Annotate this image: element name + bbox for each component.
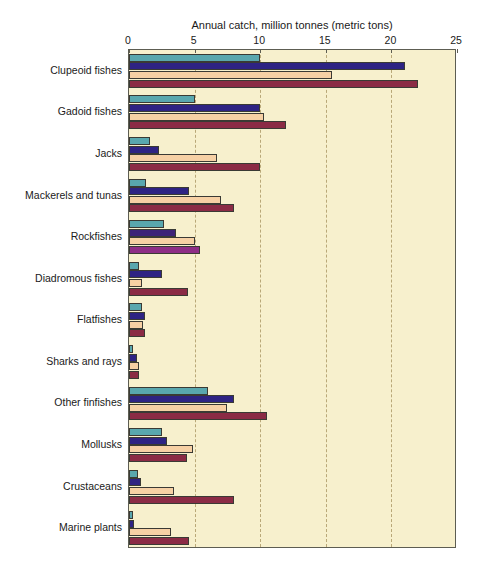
bar (129, 54, 260, 62)
x-tick-label: 5 (191, 34, 197, 46)
bar (129, 146, 159, 154)
bar (129, 237, 195, 245)
bar-group (129, 95, 455, 129)
bar (129, 329, 145, 337)
bar-rows (129, 50, 455, 547)
bar (129, 404, 227, 412)
category-label: Diadromous fishes (0, 272, 122, 284)
bar (129, 528, 171, 536)
category-label: Crustaceans (0, 480, 122, 492)
bar (129, 154, 217, 162)
bar (129, 163, 260, 171)
x-axis-tick-labels: 0510152025 (0, 34, 482, 48)
bar (129, 354, 137, 362)
bar-group (129, 262, 455, 296)
bar (129, 387, 208, 395)
bar (129, 487, 174, 495)
bar (129, 187, 189, 195)
bar (129, 478, 141, 486)
chart-title: Annual catch, million tonnes (metric ton… (128, 19, 456, 31)
bar (129, 511, 133, 519)
bar (129, 437, 167, 445)
x-tick-label: 10 (253, 34, 265, 46)
bar (129, 95, 195, 103)
bar (129, 62, 405, 70)
bar-group (129, 54, 455, 88)
x-tick-mark (260, 49, 261, 53)
bar (129, 303, 142, 311)
x-tick-label: 25 (450, 34, 462, 46)
x-tick-label: 0 (125, 34, 131, 46)
category-label: Jacks (0, 147, 122, 159)
category-label: Marine plants (0, 521, 122, 533)
x-tick-mark (457, 49, 458, 53)
bar (129, 362, 139, 370)
bar-group (129, 345, 455, 379)
bar (129, 113, 264, 121)
bar (129, 412, 267, 420)
bar (129, 445, 193, 453)
bar (129, 454, 187, 462)
category-label: Other finfishes (0, 396, 122, 408)
chart-figure: Annual catch, million tonnes (metric ton… (0, 0, 482, 573)
bar-group (129, 137, 455, 171)
bar-group (129, 220, 455, 254)
category-label: Rockfishes (0, 230, 122, 242)
x-tick-mark (326, 49, 327, 53)
x-tick-mark (129, 49, 130, 53)
bar (129, 537, 189, 545)
bar (129, 121, 286, 129)
bar (129, 270, 162, 278)
bar (129, 395, 234, 403)
bar-group (129, 470, 455, 504)
bar-group (129, 511, 455, 545)
bar-group (129, 428, 455, 462)
category-label: Gadoid fishes (0, 105, 122, 117)
category-label: Sharks and rays (0, 355, 122, 367)
bar (129, 137, 150, 145)
x-tick-mark (391, 49, 392, 53)
bar (129, 288, 188, 296)
bar (129, 196, 221, 204)
bar (129, 428, 162, 436)
bar (129, 71, 332, 79)
bar (129, 229, 176, 237)
category-label: Mackerels and tunas (0, 189, 122, 201)
bar (129, 312, 145, 320)
bar-group (129, 387, 455, 421)
x-tick-label: 20 (385, 34, 397, 46)
x-tick-label: 15 (319, 34, 331, 46)
bar (129, 470, 138, 478)
bar (129, 179, 146, 187)
bar (129, 321, 143, 329)
category-label: Clupeoid fishes (0, 64, 122, 76)
bar (129, 262, 139, 270)
bar (129, 520, 134, 528)
bar (129, 204, 234, 212)
bar (129, 345, 133, 353)
plot-area (128, 49, 456, 548)
bar (129, 220, 164, 228)
bar-group (129, 179, 455, 213)
category-label: Mollusks (0, 438, 122, 450)
bar (129, 80, 418, 88)
bar (129, 246, 200, 254)
bar-group (129, 303, 455, 337)
bar (129, 496, 234, 504)
bar (129, 104, 260, 112)
x-tick-mark (195, 49, 196, 53)
category-label: Flatfishes (0, 313, 122, 325)
bar (129, 371, 139, 379)
bar (129, 279, 142, 287)
category-axis-labels: Clupeoid fishesGadoid fishesJacksMackere… (0, 49, 122, 548)
